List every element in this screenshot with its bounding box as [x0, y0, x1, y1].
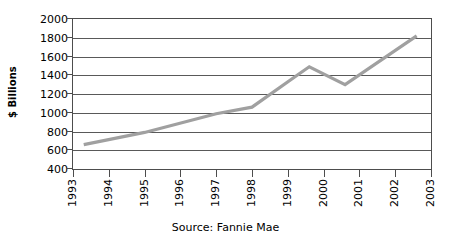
y-axis-tick-label: 1600: [40, 51, 68, 62]
x-axis-tick: [109, 170, 110, 177]
x-axis-tick: [73, 170, 74, 177]
y-axis-tick-label: 1000: [40, 107, 68, 118]
y-axis-tick-labels: 200018001600140012001000800600400: [20, 18, 68, 170]
y-axis-tick-label: 600: [47, 145, 68, 156]
x-axis-tick-label: 1999: [282, 179, 293, 207]
x-axis-tick-label: 2002: [389, 179, 400, 207]
x-axis-tick: [145, 170, 146, 177]
x-axis-tick: [431, 170, 432, 177]
x-axis-tick: [252, 170, 253, 177]
x-axis-tick: [359, 170, 360, 177]
x-axis-tick-label: 1998: [246, 179, 257, 207]
x-axis-tick-label: 1996: [174, 179, 185, 207]
y-axis-title: $ Billions: [4, 52, 20, 132]
x-axis-tick: [395, 170, 396, 177]
x-axis-tick: [324, 170, 325, 177]
chart-figure: $ Billions 20001800160014001200100080060…: [0, 0, 451, 245]
x-axis-tick-label: 1993: [67, 179, 78, 207]
plot-area: [72, 18, 432, 170]
y-axis-tick-label: 1200: [40, 89, 68, 100]
x-axis-tick-label: 1995: [139, 179, 150, 207]
y-axis-tick-label: 400: [47, 164, 68, 175]
data-line-series: [73, 19, 431, 169]
source-caption: Source: Fannie Mae: [0, 221, 451, 234]
y-axis-tick-label: 1400: [40, 70, 68, 81]
x-axis-tick-label: 2003: [425, 179, 436, 207]
x-axis-tick: [288, 170, 289, 177]
x-axis-tick: [180, 170, 181, 177]
x-axis-tick-label: 2000: [318, 179, 329, 207]
x-axis-tick: [216, 170, 217, 177]
y-axis-tick-label: 800: [47, 126, 68, 137]
series-line: [84, 36, 417, 145]
y-axis-tick-label: 2000: [40, 14, 68, 25]
x-axis-tick-label: 2001: [353, 179, 364, 207]
x-axis-tick-label: 1994: [103, 179, 114, 207]
x-axis-tick-label: 1997: [210, 179, 221, 207]
y-axis-tick-label: 1800: [40, 32, 68, 43]
